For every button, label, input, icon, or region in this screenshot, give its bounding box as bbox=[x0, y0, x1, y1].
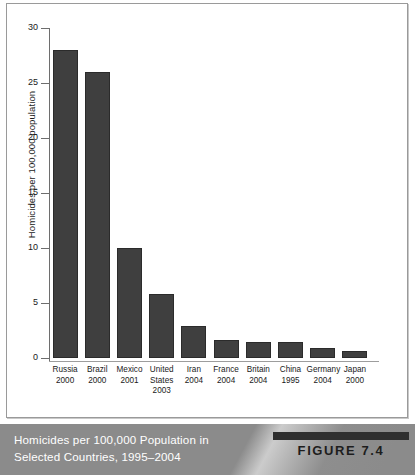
x-label-line: 2004 bbox=[242, 376, 274, 387]
figure-caption-band: Homicides per 100,000 Population in Sele… bbox=[0, 424, 415, 475]
x-label-line: 2003 bbox=[146, 386, 178, 397]
x-label-line: United bbox=[146, 365, 178, 376]
figure-caption-line-1: Homicides per 100,000 Population in bbox=[14, 431, 209, 448]
bar-mexico bbox=[117, 248, 142, 358]
x-label-line: 2004 bbox=[210, 376, 242, 387]
x-label-line: 2000 bbox=[81, 376, 113, 387]
y-tick-label-15: 15 bbox=[28, 187, 38, 197]
x-label-britain: Britain2004 bbox=[242, 365, 274, 386]
x-label-line: Russia bbox=[49, 365, 81, 376]
x-label-line: Mexico bbox=[113, 365, 145, 376]
figure-7-4: Homicides per 100,000 population 0510152… bbox=[0, 0, 415, 475]
y-tick-30: 30 bbox=[41, 28, 50, 29]
x-label-line: China bbox=[274, 365, 306, 376]
x-label-line: Brazil bbox=[81, 365, 113, 376]
y-tick-0: 0 bbox=[41, 358, 50, 359]
y-tick-10: 10 bbox=[41, 248, 50, 249]
x-label-line: 1995 bbox=[274, 376, 306, 387]
x-label-line: States bbox=[146, 376, 178, 387]
x-label-line: Japan bbox=[339, 365, 371, 376]
x-label-line: 2000 bbox=[339, 376, 371, 387]
x-label-line: 2004 bbox=[178, 376, 210, 387]
figure-caption: Homicides per 100,000 Population in Sele… bbox=[14, 431, 209, 465]
chart-plot-panel: Homicides per 100,000 population 0510152… bbox=[6, 3, 408, 418]
y-tick-label-5: 5 bbox=[33, 297, 38, 307]
x-label-line: 2001 bbox=[113, 376, 145, 387]
x-label-japan: Japan2000 bbox=[339, 365, 371, 386]
bar-china bbox=[278, 342, 303, 359]
bar-iran bbox=[181, 326, 206, 358]
x-label-line: 2004 bbox=[307, 376, 339, 387]
y-tick-label-30: 30 bbox=[28, 22, 38, 32]
x-label-line: France bbox=[210, 365, 242, 376]
y-tick-label-10: 10 bbox=[28, 242, 38, 252]
x-label-germany: Germany2004 bbox=[307, 365, 339, 386]
x-label-line: 2000 bbox=[49, 376, 81, 387]
y-tick-25: 25 bbox=[41, 83, 50, 84]
y-axis-line bbox=[49, 28, 50, 362]
x-label-mexico: Mexico2001 bbox=[113, 365, 145, 386]
x-label-brazil: Brazil2000 bbox=[81, 365, 113, 386]
x-label-russia: Russia2000 bbox=[49, 365, 81, 386]
y-tick-5: 5 bbox=[41, 303, 50, 304]
bar-russia bbox=[53, 50, 78, 358]
figure-number-label: FIGURE 7.4 bbox=[273, 443, 409, 458]
bar-germany bbox=[310, 348, 335, 358]
x-label-line: Britain bbox=[242, 365, 274, 376]
y-tick-20: 20 bbox=[41, 138, 50, 139]
figure-caption-line-2: Selected Countries, 1995–2004 bbox=[14, 448, 209, 465]
y-tick-label-0: 0 bbox=[33, 352, 38, 362]
x-label-line: Iran bbox=[178, 365, 210, 376]
bar-brazil bbox=[85, 72, 110, 358]
bar-japan bbox=[342, 351, 367, 358]
x-label-iran: Iran2004 bbox=[178, 365, 210, 386]
x-label-united-states: UnitedStates2003 bbox=[146, 365, 178, 397]
x-axis-line bbox=[49, 361, 379, 362]
x-label-france: France2004 bbox=[210, 365, 242, 386]
x-label-line: Germany bbox=[307, 365, 339, 376]
y-tick-label-20: 20 bbox=[28, 132, 38, 142]
figure-badge-rule bbox=[273, 432, 409, 440]
bar-united-states bbox=[149, 294, 174, 358]
x-label-china: China1995 bbox=[274, 365, 306, 386]
bar-britain bbox=[246, 342, 271, 359]
bar-france bbox=[214, 340, 239, 358]
figure-number-badge: FIGURE 7.4 bbox=[273, 432, 409, 458]
y-tick-15: 15 bbox=[41, 193, 50, 194]
y-tick-label-25: 25 bbox=[28, 77, 38, 87]
